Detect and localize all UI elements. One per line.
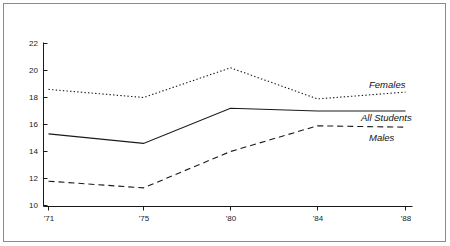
x-axis-tick-label-75: '75	[131, 214, 157, 223]
chart-screenshot: 22 20 18 16 14 12 10 '71 '75 '80 '84 '88…	[0, 0, 450, 246]
y-axis-tick-label-22: 22	[20, 39, 38, 48]
y-axis-tick-label-14: 14	[20, 147, 38, 156]
y-axis-tick-label-16: 16	[20, 120, 38, 129]
x-axis-tick-label-88: '88	[393, 214, 419, 223]
line-chart-plot	[0, 0, 450, 246]
x-axis-tick-label-80: '80	[218, 214, 244, 223]
series-line-females	[49, 68, 406, 99]
x-axis-tick-label-84: '84	[305, 214, 331, 223]
y-axis-tick-label-12: 12	[20, 174, 38, 183]
y-axis-tick-label-10: 10	[20, 201, 38, 210]
x-axis-tick-label-71: '71	[36, 214, 62, 223]
chart-series-group	[49, 68, 406, 188]
series-label-females: Females	[369, 79, 405, 90]
series-label-all-students: All Students	[361, 112, 412, 123]
y-axis-tick-label-20: 20	[20, 66, 38, 75]
series-line-males	[49, 126, 406, 188]
x-axis-ticks	[49, 207, 406, 211]
series-label-males: Males	[369, 132, 394, 143]
y-axis-tick-label-18: 18	[20, 93, 38, 102]
chart-axes	[44, 43, 413, 207]
y-axis-ticks	[44, 44, 48, 206]
